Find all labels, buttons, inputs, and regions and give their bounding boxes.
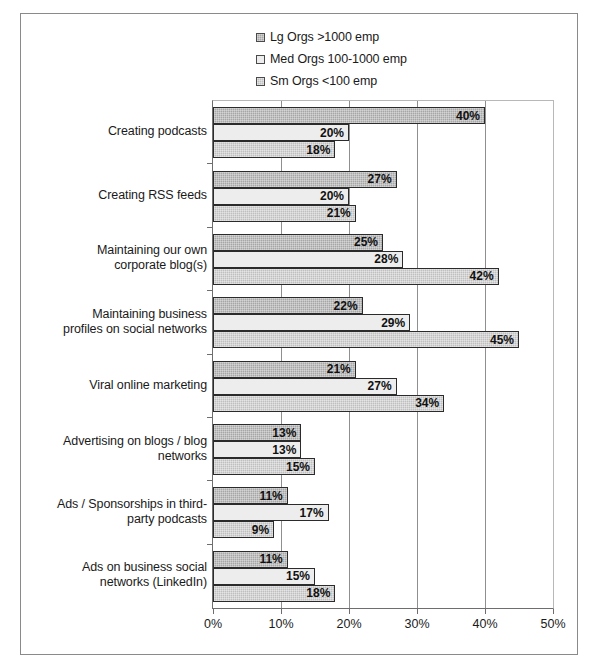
x-axis-tick — [417, 609, 418, 614]
category-axis-labels: Creating podcastsCreating RSS feedsMaint… — [31, 100, 207, 609]
bar[interactable]: 27% — [213, 171, 397, 188]
bar[interactable]: 27% — [213, 378, 397, 395]
legend-swatch-icon — [256, 77, 265, 86]
bar-value-label: 40% — [456, 109, 484, 123]
category-label: Creating podcasts — [31, 124, 207, 139]
category-label: Ads on business socialnetworks (LinkedIn… — [31, 560, 207, 590]
bar-group: 22%29%45% — [213, 291, 553, 354]
bar[interactable]: 42% — [213, 268, 499, 285]
x-axis-tick — [213, 609, 214, 614]
bar-value-label: 21% — [327, 362, 355, 376]
bar[interactable]: 15% — [213, 458, 315, 475]
bar[interactable]: 20% — [213, 124, 349, 141]
bar-value-label: 21% — [327, 206, 355, 220]
legend-item[interactable]: Lg Orgs >1000 emp — [256, 26, 516, 48]
bar[interactable]: 18% — [213, 585, 335, 602]
bar-value-label: 25% — [354, 235, 382, 249]
bar-value-label: 13% — [272, 426, 300, 440]
category-label: Creating RSS feeds — [31, 188, 207, 203]
bar-value-label: 20% — [320, 189, 348, 203]
bar[interactable]: 15% — [213, 568, 315, 585]
x-axis-tick — [281, 609, 282, 614]
bar-group: 27%20%21% — [213, 164, 553, 227]
bar-group: 13%13%15% — [213, 418, 553, 481]
x-axis-tick — [485, 609, 486, 614]
bar-group: 25%28%42% — [213, 228, 553, 291]
chart-frame: Lg Orgs >1000 empMed Orgs 100-1000 empSm… — [20, 13, 578, 655]
bar-value-label: 18% — [306, 586, 334, 600]
x-axis-tick — [349, 609, 350, 614]
category-label: Maintaining our owncorporate blog(s) — [31, 243, 207, 273]
bar[interactable]: 20% — [213, 188, 349, 205]
category-label: Ads / Sponsorships in third-party podcas… — [31, 497, 207, 527]
category-label: Advertising on blogs / blognetworks — [31, 434, 207, 464]
x-axis-tick-label: 50% — [540, 617, 565, 631]
chart-legend: Lg Orgs >1000 empMed Orgs 100-1000 empSm… — [256, 26, 516, 92]
legend-item-label: Med Orgs 100-1000 emp — [270, 52, 407, 66]
bar[interactable]: 9% — [213, 521, 274, 538]
bar[interactable]: 13% — [213, 441, 301, 458]
legend-swatch-icon — [256, 33, 265, 42]
x-axis-tick-label: 30% — [404, 617, 429, 631]
bar[interactable]: 17% — [213, 504, 329, 521]
bar-value-label: 9% — [252, 523, 273, 537]
bar-value-label: 42% — [470, 269, 498, 283]
legend-swatch-icon — [256, 55, 265, 64]
bar[interactable]: 11% — [213, 551, 288, 568]
x-axis: 0%10%20%30%40%50% — [212, 609, 556, 649]
plot-wrapper: 40%20%18%27%20%21%25%28%42%22%29%45%21%2… — [212, 100, 554, 609]
bar-value-label: 15% — [286, 569, 314, 583]
bar[interactable]: 29% — [213, 314, 410, 331]
bar-value-label: 28% — [374, 252, 402, 266]
bar-value-label: 15% — [286, 460, 314, 474]
bar[interactable]: 13% — [213, 424, 301, 441]
bar[interactable]: 18% — [213, 141, 335, 158]
bar-value-label: 45% — [490, 333, 518, 347]
bar[interactable]: 34% — [213, 395, 444, 412]
bar[interactable]: 40% — [213, 107, 485, 124]
legend-item[interactable]: Med Orgs 100-1000 emp — [256, 48, 516, 70]
bar-group: 11%15%18% — [213, 545, 553, 608]
bar[interactable]: 25% — [213, 234, 383, 251]
bar[interactable]: 11% — [213, 487, 288, 504]
bar-value-label: 18% — [306, 143, 334, 157]
bar[interactable]: 45% — [213, 331, 519, 348]
bar-value-label: 27% — [368, 379, 396, 393]
legend-item-label: Sm Orgs <100 emp — [270, 74, 377, 88]
bar-group: 21%27%34% — [213, 355, 553, 418]
x-axis-tick — [553, 609, 554, 614]
bar-value-label: 11% — [259, 552, 286, 566]
bar-value-label: 27% — [368, 172, 396, 186]
bar-group: 11%17%9% — [213, 481, 553, 544]
x-axis-tick-label: 0% — [204, 617, 222, 631]
bar-value-label: 22% — [334, 299, 362, 313]
bar[interactable]: 28% — [213, 251, 403, 268]
bar-value-label: 20% — [320, 126, 348, 140]
category-label: Viral online marketing — [31, 378, 207, 393]
category-label: Maintaining businessprofiles on social n… — [31, 307, 207, 337]
bar-value-label: 17% — [300, 506, 328, 520]
bar-group: 40%20%18% — [213, 101, 553, 164]
bar[interactable]: 21% — [213, 205, 356, 222]
x-axis-tick-label: 10% — [268, 617, 293, 631]
bar-value-label: 34% — [415, 396, 443, 410]
legend-item[interactable]: Sm Orgs <100 emp — [256, 70, 516, 92]
bar[interactable]: 22% — [213, 297, 363, 314]
legend-item-label: Lg Orgs >1000 emp — [270, 30, 379, 44]
bar-rows: 40%20%18%27%20%21%25%28%42%22%29%45%21%2… — [213, 101, 553, 608]
bar-value-label: 13% — [272, 443, 300, 457]
x-axis-tick-label: 20% — [336, 617, 361, 631]
bar-value-label: 11% — [259, 489, 286, 503]
bar-value-label: 29% — [381, 316, 409, 330]
bar[interactable]: 21% — [213, 361, 356, 378]
x-axis-tick-label: 40% — [472, 617, 497, 631]
